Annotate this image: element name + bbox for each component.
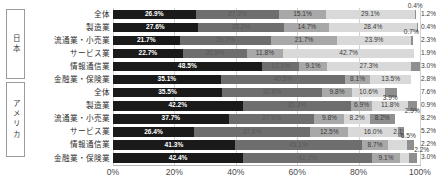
bar-row: 37.7%27.9%9.8%8.2%8.2%8.2%: [113, 112, 420, 125]
bar-segment: 8.2%: [344, 114, 369, 124]
x-axis-tick-label: 80%: [350, 167, 367, 177]
category-label: 金融業・保険業: [28, 73, 110, 86]
segment-value-label: 10.6%: [359, 89, 378, 96]
bar-segment: [397, 88, 420, 98]
group-label-america: アメリカ: [6, 82, 25, 157]
segment-value-callout: 1.9%: [421, 50, 436, 57]
bar-segment: 12.5%: [310, 127, 348, 137]
category-label: 全体: [28, 8, 110, 21]
bar-row: 42.4%42.0%9.1%3.0%: [113, 152, 420, 165]
bar-segment: 11.8%: [247, 49, 283, 59]
segment-value-label: 26.9%: [145, 11, 164, 18]
bar-segment: 41.3%: [113, 140, 235, 150]
category-label: サービス業: [28, 125, 110, 138]
category-label: 全体: [28, 86, 110, 99]
bar-segment: 12.1%: [262, 62, 299, 72]
stacked-bar: 22.7%20.9%11.8%42.7%: [113, 49, 420, 59]
bar-segment: [400, 153, 409, 163]
segment-value-label: 29.1%: [361, 11, 380, 18]
segment-value-label: 23.9%: [365, 37, 384, 44]
segment-value-callout: 5.2%: [421, 128, 436, 135]
bar-segment: 23.9%: [337, 36, 410, 46]
segment-value-label: 13.5%: [381, 76, 400, 83]
bar-segment: [409, 153, 417, 163]
bar-row: 48.5%12.1%9.1%27.3%3.0%: [113, 60, 420, 73]
segment-value-label: 48.5%: [178, 63, 197, 70]
stacked-bar: 48.5%12.1%9.1%27.3%: [113, 62, 420, 72]
segment-value-label: 43.1%: [289, 142, 308, 149]
axis-baseline: [113, 165, 421, 166]
segment-value-label: 11.8%: [381, 102, 399, 109]
segment-value-label: 27.6%: [146, 24, 165, 31]
bar-row: 41.3%43.1%8.7%6.5%2.2%2.2%: [113, 138, 420, 151]
bar-segment: 9.8%: [322, 88, 352, 98]
bar-row: 42.2%35.3%6.9%11.8%2.9%0.9%: [113, 99, 420, 112]
bar-segment: 42.0%: [243, 153, 372, 163]
bar-segment: [388, 140, 407, 150]
bar-segment: 22.7%: [113, 49, 183, 59]
bar-segment: 20.9%: [183, 49, 247, 59]
category-label: 流通業・小売業: [28, 112, 110, 125]
segment-value-callout: 0.4%: [421, 24, 436, 31]
bar-row: 27.6%28.2%14.7%28.4%0.4%: [113, 21, 420, 34]
bar-segment: 26.4%: [113, 127, 194, 137]
stacked-bar: 41.3%43.1%8.7%: [113, 140, 420, 150]
segment-value-label: 9.1%: [305, 63, 320, 70]
segment-value-callout: 0.7%: [404, 29, 419, 36]
segment-value-label: 26.4%: [144, 129, 163, 136]
segment-value-label: 35.3%: [287, 102, 306, 109]
bar-segment: 29.7%: [180, 36, 271, 46]
segment-value-callout: 3.0%: [421, 154, 436, 161]
segment-value-label: 37.8%: [243, 129, 262, 136]
segment-value-callout: 2.3%: [421, 37, 436, 44]
bar-segment: 27.3%: [327, 62, 411, 72]
segment-value-label: 35.1%: [158, 76, 177, 83]
bar-segment: 8.7%: [362, 140, 388, 150]
bar-segment: 26.9%: [113, 10, 196, 20]
stacked-bar: 27.6%28.2%14.7%28.4%: [113, 23, 420, 33]
segment-value-label: 22.7%: [138, 50, 157, 57]
x-axis-tick-label: 40%: [227, 167, 244, 177]
segment-value-label: 8.2%: [350, 115, 365, 122]
category-label: 製造業: [28, 99, 110, 112]
bar-segment: 42.2%: [113, 101, 243, 111]
stacked-bar: 42.4%42.0%9.1%: [113, 153, 420, 163]
group-label-japan-text: 日本: [12, 34, 20, 54]
bar-segment: [414, 49, 420, 59]
bar-segment: 37.7%: [113, 114, 229, 124]
segment-value-label: 28.2%: [232, 24, 251, 31]
bar-row: 21.7%29.7%21.7%23.9%0.7%2.3%: [113, 34, 420, 47]
bar-segment: 48.5%: [113, 62, 262, 72]
segment-value-label: 29.7%: [216, 37, 235, 44]
segment-value-label: 32.6%: [263, 89, 282, 96]
bar-segment: [395, 114, 420, 124]
bar-segment: 13.5%: [370, 75, 411, 85]
category-label: 製造業: [28, 21, 110, 34]
bar-segment: 8.2%: [370, 114, 395, 124]
bar-segment: [417, 153, 420, 163]
bar-segment: 29.1%: [326, 10, 415, 20]
plot-area: 26.9%27.3%15.1%29.1%0.4%1.2%27.6%28.2%14…: [113, 8, 420, 165]
bar-segment: 42.7%: [283, 49, 414, 59]
stacked-bar: 35.5%32.6%9.8%10.6%: [113, 88, 420, 98]
segment-value-label: 37.7%: [162, 115, 181, 122]
bar-segment: 15.1%: [279, 10, 325, 20]
segment-value-callout: 0.4%: [408, 3, 423, 10]
segment-value-label: 21.7%: [137, 37, 156, 44]
segment-value-label: 8.1%: [350, 76, 365, 83]
segment-value-callout: 3.0%: [421, 63, 436, 70]
bar-segment: 8.1%: [345, 75, 370, 85]
segment-value-label: 27.3%: [228, 11, 247, 18]
segment-value-label: 16.0%: [364, 129, 383, 136]
x-axis-tick-label: 0%: [107, 167, 119, 177]
bar-segment: 10.6%: [352, 88, 385, 98]
segment-value-label: 21.7%: [295, 37, 314, 44]
bar-segment: [411, 62, 420, 72]
bar-segment: 40.5%: [221, 75, 345, 85]
segment-value-label: 11.8%: [256, 50, 274, 57]
segment-value-label: 27.3%: [360, 63, 379, 70]
segment-value-label: 42.4%: [169, 155, 188, 162]
segment-value-label: 40.5%: [274, 76, 293, 83]
segment-value-label: 20.9%: [205, 50, 224, 57]
category-label: 金融業・保険業: [28, 152, 110, 165]
